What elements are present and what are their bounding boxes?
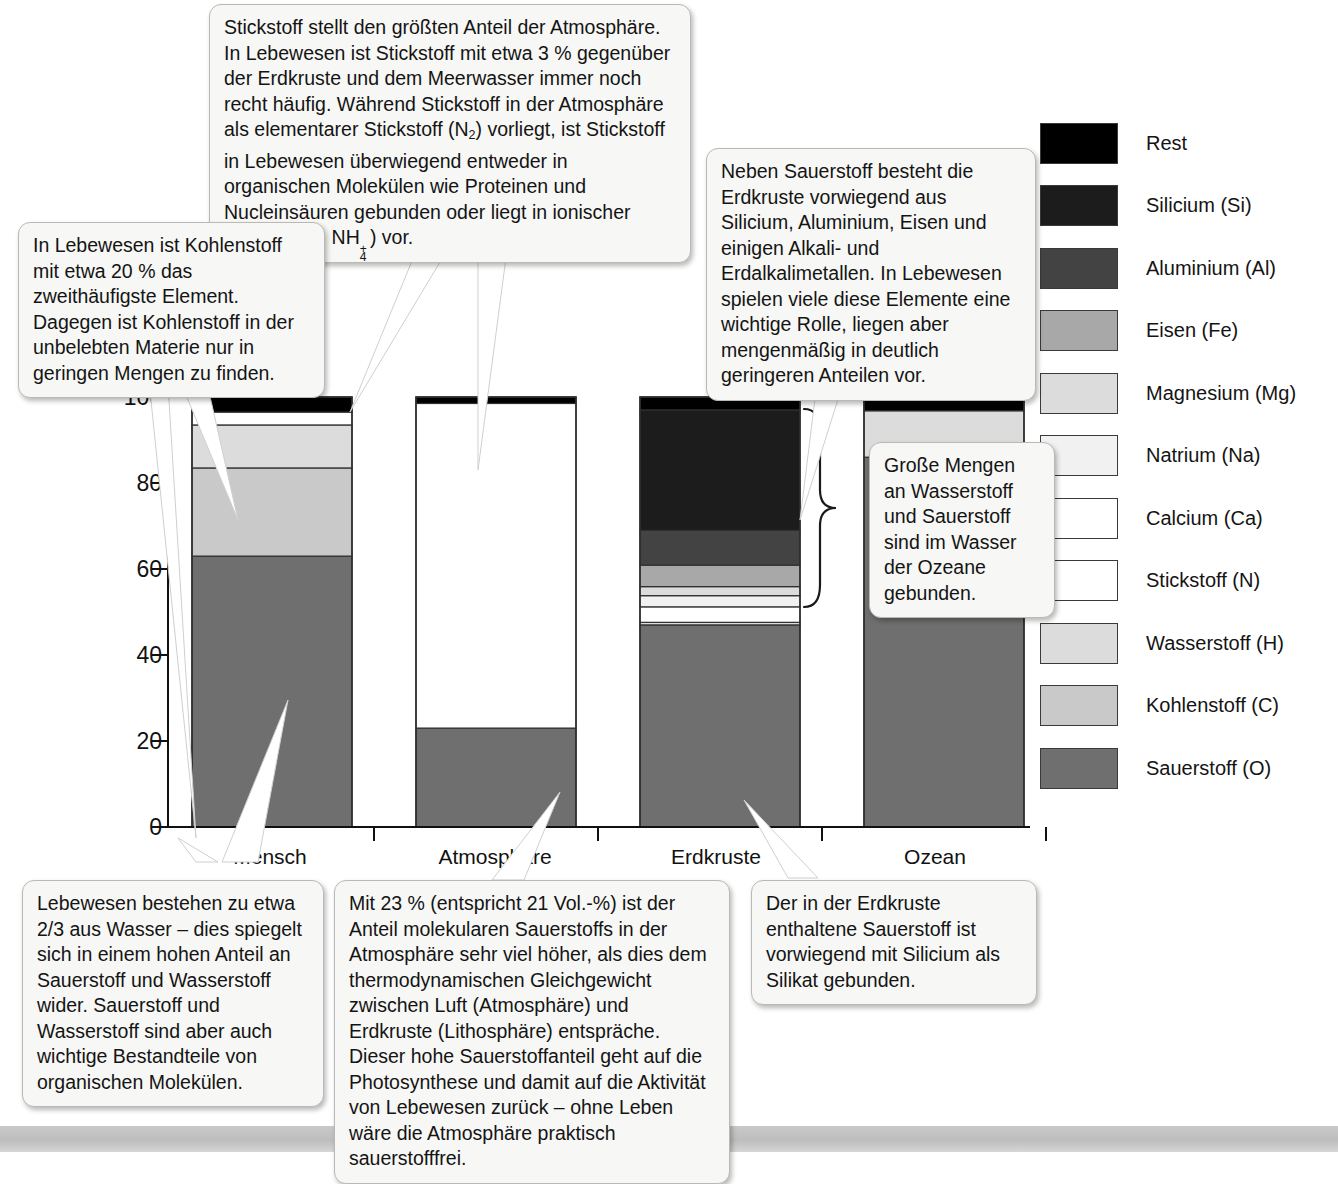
legend-item-calcium[interactable]: Calcium (Ca)	[1040, 487, 1296, 550]
legend-item-stickstoff[interactable]: Stickstoff (N)	[1040, 550, 1296, 613]
legend-swatch-wasserstoff	[1040, 623, 1118, 664]
legend-item-eisen[interactable]: Eisen (Fe)	[1040, 300, 1296, 363]
callout-nitrogen-part3: , NH	[321, 226, 360, 248]
callout-crust: Neben Sauerstoff besteht die Erdkruste v…	[706, 148, 1036, 401]
nitrogen-subscript-2: 2	[469, 128, 476, 142]
legend-swatch-silicium	[1040, 185, 1118, 226]
legend-item-wasserstoff[interactable]: Wasserstoff (H)	[1040, 612, 1296, 675]
legend-swatch-magnesium	[1040, 373, 1118, 414]
legend-item-natrium[interactable]: Natrium (Na)	[1040, 425, 1296, 488]
legend-label-calcium: Calcium (Ca)	[1146, 507, 1263, 530]
legend-label-kohlenstoff: Kohlenstoff (C)	[1146, 694, 1279, 717]
legend-swatch-rest	[1040, 123, 1118, 164]
callout-nitrogen-part4: ) vor.	[370, 226, 413, 248]
legend-item-silicium[interactable]: Silicium (Si)	[1040, 175, 1296, 238]
callout-water: Lebewesen bestehen zu etwa 2/3 aus Wasse…	[22, 880, 324, 1107]
legend-swatch-sauerstoff	[1040, 748, 1118, 789]
legend-label-aluminium: Aluminium (Al)	[1146, 257, 1276, 280]
callout-carbon: In Lebewesen ist Kohlenstoff mit etwa 20…	[18, 222, 325, 398]
legend-item-kohlenstoff[interactable]: Kohlenstoff (C)	[1040, 675, 1296, 738]
legend-label-rest: Rest	[1146, 132, 1187, 155]
legend-swatch-kohlenstoff	[1040, 685, 1118, 726]
callout-crust-text: Neben Sauerstoff besteht die Erdkruste v…	[721, 159, 1021, 389]
callout-water-text: Lebewesen bestehen zu etwa 2/3 aus Wasse…	[37, 891, 309, 1095]
callout-atmosphere-text: Mit 23 % (entspricht 21 Vol.-%) ist der …	[349, 891, 715, 1172]
legend-label-natrium: Natrium (Na)	[1146, 444, 1260, 467]
legend-item-rest[interactable]: Rest	[1040, 112, 1296, 175]
legend-swatch-aluminium	[1040, 248, 1118, 289]
legend-label-eisen: Eisen (Fe)	[1146, 319, 1238, 342]
legend-item-aluminium[interactable]: Aluminium (Al)	[1040, 237, 1296, 300]
callout-silicate: Der in der Erdkruste enthaltene Sauersto…	[751, 880, 1037, 1005]
legend: Rest Silicium (Si) Aluminium (Al) Eisen …	[1040, 112, 1296, 800]
legend-label-magnesium: Magnesium (Mg)	[1146, 382, 1296, 405]
legend-label-wasserstoff: Wasserstoff (H)	[1146, 632, 1284, 655]
callout-ocean: Große Mengen an Wasserstoff und Sauersto…	[869, 442, 1055, 618]
callout-carbon-text: In Lebewesen ist Kohlenstoff mit etwa 20…	[33, 233, 310, 386]
callout-ocean-text: Große Mengen an Wasserstoff und Sauersto…	[884, 453, 1040, 606]
legend-item-sauerstoff[interactable]: Sauerstoff (O)	[1040, 737, 1296, 800]
callout-atmosphere: Mit 23 % (entspricht 21 Vol.-%) ist der …	[334, 880, 730, 1184]
legend-label-sauerstoff: Sauerstoff (O)	[1146, 757, 1271, 780]
legend-label-stickstoff: Stickstoff (N)	[1146, 569, 1260, 592]
legend-swatch-eisen	[1040, 310, 1118, 351]
legend-item-magnesium[interactable]: Magnesium (Mg)	[1040, 362, 1296, 425]
callout-silicate-text: Der in der Erdkruste enthaltene Sauersto…	[766, 891, 1022, 993]
legend-label-silicium: Silicium (Si)	[1146, 194, 1252, 217]
